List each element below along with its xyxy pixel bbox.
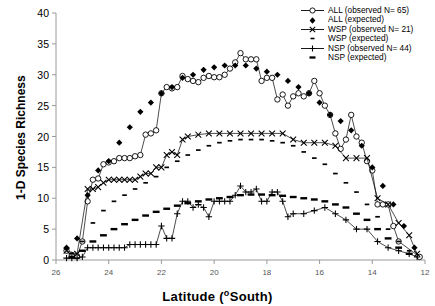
- legend-item: NSP (expected): [300, 53, 413, 62]
- series-0: [64, 50, 423, 259]
- svg-text:12: 12: [421, 268, 430, 277]
- legend-marker-wsp-observed: [300, 25, 326, 34]
- legend-marker-all-observed: [300, 6, 326, 15]
- svg-text:20: 20: [210, 268, 219, 277]
- y-axis-title: 1-D Species Richness: [14, 75, 28, 200]
- series-2: [64, 131, 420, 257]
- svg-text:5: 5: [43, 223, 49, 235]
- legend-label: NSP (expected): [326, 53, 386, 62]
- svg-text:20: 20: [37, 131, 49, 143]
- svg-text:22: 22: [157, 268, 166, 277]
- svg-text:40: 40: [37, 7, 49, 19]
- chart-legend: ALL (observed N= 65) ALL (expected) WSP …: [300, 6, 413, 62]
- svg-text:35: 35: [37, 38, 49, 50]
- svg-text:25: 25: [37, 100, 49, 112]
- svg-text:30: 30: [37, 69, 49, 81]
- svg-text:16: 16: [315, 268, 324, 277]
- svg-text:0: 0: [43, 254, 49, 266]
- svg-text:18: 18: [262, 268, 271, 277]
- legend-marker-all-expected: [300, 16, 326, 25]
- legend-marker-nsp-expected: [300, 53, 326, 62]
- svg-text:24: 24: [104, 268, 113, 277]
- chart-figure: 05101520253035402624222018161412 1-D Spe…: [0, 0, 435, 306]
- svg-text:26: 26: [52, 268, 61, 277]
- legend-marker-nsp-observed: [300, 44, 326, 53]
- x-axis-title: Latitude (oSouth): [0, 288, 435, 304]
- svg-text:10: 10: [37, 192, 49, 204]
- svg-text:15: 15: [37, 161, 49, 173]
- legend-marker-wsp-expected: [300, 34, 326, 43]
- svg-text:14: 14: [368, 268, 377, 277]
